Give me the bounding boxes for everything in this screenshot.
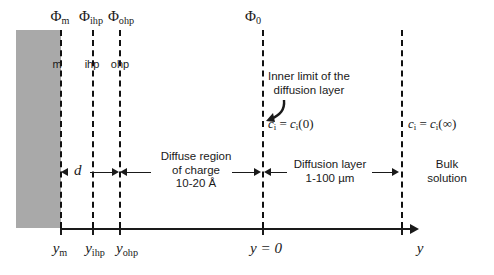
plane-line-y0 xyxy=(262,30,264,228)
diffusion-line-2: 1-100 µm xyxy=(294,172,367,186)
bulk-line-1: Bulk xyxy=(427,158,467,172)
bulk-line-2: solution xyxy=(427,172,467,186)
axis-tick-yihp xyxy=(92,228,94,235)
axis-label-yihp: yihp xyxy=(85,240,105,258)
plane-line-bulk xyxy=(401,30,403,228)
eq-rhs: c xyxy=(430,116,436,131)
eq-lhs-sub: i xyxy=(274,122,276,132)
axis-label-y0: y = 0 xyxy=(250,240,282,258)
y-axis-line xyxy=(60,228,412,230)
axis-label-ym: ym xyxy=(53,240,68,258)
phi-symbol: Φ xyxy=(51,8,62,24)
bulk-solution-label: Bulk solution xyxy=(427,158,467,185)
axis-tick-yohp xyxy=(119,228,121,235)
y-symbol: y xyxy=(85,240,92,256)
eq-rhs-sub: i xyxy=(436,122,438,132)
inner-limit-callout: Inner limit of the diffusion layer xyxy=(268,70,350,97)
diffuse-region-label: Diffuse region of charge 10-20 Å xyxy=(161,150,232,191)
dimension-arrow-d-left xyxy=(61,168,68,176)
potential-label-phi-0: Φ0 xyxy=(245,8,261,26)
diffusion-layer-arrow-left xyxy=(264,168,271,176)
plane-label-m: m xyxy=(52,58,61,71)
diffusion-layer-label: Diffusion layer 1-100 µm xyxy=(294,158,367,185)
diffuse-line-1: Diffuse region xyxy=(161,150,232,164)
eq-arg: (∞) xyxy=(438,116,456,131)
plane-label-ohp: ohp xyxy=(111,58,129,71)
eq-lhs-sub: i xyxy=(414,122,416,132)
eq-lhs: c xyxy=(268,116,274,131)
dimension-label-d: d xyxy=(74,162,82,180)
dimension-arrow-d-right xyxy=(112,168,119,176)
axis-label-y: y xyxy=(417,240,424,258)
callout-line-1: Inner limit of the xyxy=(268,70,350,84)
y-subscript: ohp xyxy=(123,247,138,258)
phi-symbol: Φ xyxy=(79,8,90,24)
y-axis-arrowhead xyxy=(410,224,419,234)
phi-subscript: m xyxy=(62,15,70,26)
phi-subscript: ohp xyxy=(119,15,134,26)
diffusion-line-1: Diffusion layer xyxy=(294,158,367,172)
diffusion-layer-arrow-right xyxy=(392,168,399,176)
eq-rhs: c xyxy=(290,116,296,131)
eq-rhs-sub: i xyxy=(296,122,298,132)
diffuse-region-line-left xyxy=(127,172,151,173)
plane-label-ihp: ihp xyxy=(85,58,100,71)
axis-tick-ym xyxy=(60,228,62,235)
phi-subscript: 0 xyxy=(256,15,261,26)
eq-equals: = xyxy=(419,116,426,131)
diffuse-region-arrow-right xyxy=(254,168,261,176)
callout-line-2: diffusion layer xyxy=(268,84,350,98)
potential-label-phi-m: Φm xyxy=(51,8,70,26)
diffuse-line-2: of charge xyxy=(161,164,232,178)
y-subscript: m xyxy=(59,247,67,258)
diffusion-layer-line-right xyxy=(372,172,394,173)
axis-tick-y0 xyxy=(262,228,264,235)
potential-label-phi-ihp: Φihp xyxy=(79,8,103,26)
diagram-canvas: Φm Φihp Φohp Φ0 m ihp ohp Inner limit of… xyxy=(0,0,494,275)
diffuse-region-line-right xyxy=(232,172,256,173)
phi-symbol: Φ xyxy=(108,8,119,24)
y-subscript: ihp xyxy=(92,247,105,258)
diffusion-layer-line-left xyxy=(271,172,287,173)
axis-label-yohp: yohp xyxy=(116,240,138,258)
equation-bulk-concentration: ci = ci(∞) xyxy=(408,116,456,131)
diffuse-line-3: 10-20 Å xyxy=(161,177,232,191)
diffuse-region-arrow-left xyxy=(120,168,127,176)
eq-equals: = xyxy=(279,116,286,131)
eq-lhs: c xyxy=(408,116,414,131)
axis-tick-bulk xyxy=(401,228,403,235)
y-symbol: y xyxy=(53,240,60,256)
phi-symbol: Φ xyxy=(245,8,256,24)
y-symbol: y xyxy=(116,240,123,256)
equation-surface-concentration: ci = ci(0) xyxy=(268,116,313,131)
eq-arg: (0) xyxy=(298,116,313,131)
potential-label-phi-ohp: Φohp xyxy=(108,8,134,26)
phi-subscript: ihp xyxy=(90,15,103,26)
